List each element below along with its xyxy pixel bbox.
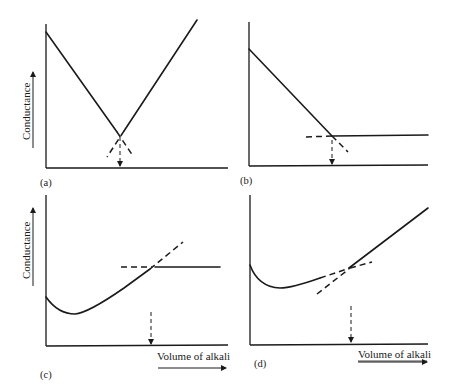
x-axis-label: Volume of alkali <box>358 348 431 360</box>
titration-curve <box>46 269 150 314</box>
descending-extrapolation <box>332 136 348 152</box>
titration-curve <box>250 265 320 288</box>
panel-label: (a) <box>40 177 52 189</box>
descending-extrapolation <box>117 132 133 156</box>
horizontal-extrapolation <box>306 136 332 137</box>
steep-rise-extrapolation <box>317 269 349 294</box>
ascending-extrapolation <box>107 131 124 157</box>
x-axis-label: Volume of alkali <box>157 350 230 362</box>
conductometric-titration-figure: Conductance (a) (b) Conductance Volume o… <box>0 0 451 389</box>
panel-d: Volume of alkali (d) <box>250 195 431 370</box>
descending-line <box>249 49 332 136</box>
y-axis-label: Conductance <box>20 221 32 279</box>
horizontal-line <box>332 135 428 136</box>
panel-label: (c) <box>40 369 52 381</box>
panel-c: Conductance Volume of alkali (c) <box>20 195 230 381</box>
panel-label: (b) <box>240 175 253 187</box>
x-axis <box>250 344 428 345</box>
ascending-line <box>124 20 197 131</box>
panel-a: Conductance (a) <box>20 20 228 189</box>
steep-rise-line <box>349 208 428 268</box>
y-axis-label: Conductance <box>20 82 32 140</box>
rising-extrapolation <box>150 242 183 269</box>
panel-label: (d) <box>254 358 267 370</box>
gentle-rise-dashed <box>320 268 350 278</box>
x-axis <box>249 165 428 166</box>
x-axis <box>46 345 228 346</box>
descending-line <box>46 32 117 132</box>
panel-b: (b) <box>240 22 428 187</box>
